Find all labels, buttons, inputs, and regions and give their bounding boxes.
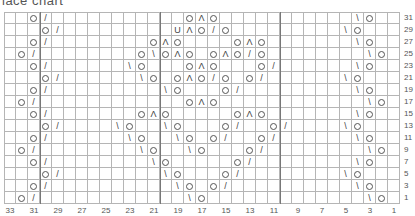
row-label: 5 [404, 169, 415, 178]
k2tog-icon: / [40, 12, 52, 24]
chart-cell [316, 168, 328, 180]
double-decrease-icon: Λ [148, 108, 160, 120]
chart-cell [304, 180, 316, 192]
ssk-icon: \ [352, 12, 364, 24]
yarn-over-icon [28, 12, 40, 24]
yarn-over-icon [352, 168, 364, 180]
chart-cell [136, 168, 148, 180]
chart-cell [112, 96, 124, 108]
row-label: 7 [404, 157, 415, 166]
chart-cell [292, 96, 304, 108]
yarn-over-icon [184, 12, 196, 24]
chart-cell [100, 72, 112, 84]
chart-cell [76, 132, 88, 144]
chart-cell [292, 84, 304, 96]
yarn-over-icon [172, 84, 184, 96]
yarn-over-icon [208, 48, 220, 60]
ssk-icon: \ [364, 192, 376, 204]
row-label: 17 [404, 97, 415, 106]
chart-cell [256, 24, 268, 36]
chart-cell [268, 96, 280, 108]
chart-cell [340, 180, 352, 192]
chart-cell [304, 12, 316, 24]
chart-cell [376, 24, 388, 36]
row-label: 19 [404, 85, 415, 94]
yarn-over-icon [136, 108, 148, 120]
lace-chart-grid: /Λ\/UΛ/\/ΛΛ\/\ΛΛ/\/\Λ/\/\Λ//\/\/\/Λ\/ΛΛ\… [4, 12, 400, 204]
chart-cell [292, 60, 304, 72]
yarn-over-icon [208, 180, 220, 192]
chart-cell [280, 144, 292, 156]
chart-cell [4, 120, 16, 132]
chart-cell [280, 36, 292, 48]
chart-cell [268, 24, 280, 36]
ssk-icon: \ [136, 72, 148, 84]
k2tog-icon: / [40, 132, 52, 144]
chart-cell [316, 48, 328, 60]
chart-cell [52, 84, 64, 96]
chart-cell [280, 192, 292, 204]
yarn-over-icon [40, 168, 52, 180]
chart-cell [280, 180, 292, 192]
ssk-icon: \ [340, 24, 352, 36]
ssk-icon: \ [136, 144, 148, 156]
ssk-icon: \ [352, 36, 364, 48]
yarn-over-icon [208, 132, 220, 144]
ssk-icon: \ [124, 132, 136, 144]
repeat-line [160, 12, 161, 204]
chart-cell [340, 192, 352, 204]
chart-cell [304, 36, 316, 48]
chart-cell [100, 12, 112, 24]
row-label: 21 [404, 73, 415, 82]
yarn-over-icon [172, 120, 184, 132]
chart-cell [328, 144, 340, 156]
chart-cell [268, 72, 280, 84]
chart-cell [340, 84, 352, 96]
yarn-over-icon [28, 180, 40, 192]
chart-cell [328, 36, 340, 48]
chart-cell [388, 144, 400, 156]
chart-cell [196, 84, 208, 96]
chart-cell [124, 12, 136, 24]
ssk-icon: \ [364, 48, 376, 60]
chart-cell [196, 156, 208, 168]
chart-cell [88, 168, 100, 180]
chart-cell [160, 132, 172, 144]
ssk-icon: \ [148, 48, 160, 60]
yarn-over-icon [256, 132, 268, 144]
chart-cell [112, 36, 124, 48]
chart-cell [376, 132, 388, 144]
k2tog-icon: / [232, 84, 244, 96]
chart-cell [124, 180, 136, 192]
chart-cell [100, 192, 112, 204]
chart-cell [40, 192, 52, 204]
yarn-over-icon [232, 48, 244, 60]
chart-cell [232, 132, 244, 144]
chart-cell [52, 108, 64, 120]
chart-cell [304, 168, 316, 180]
chart-cell [232, 60, 244, 72]
chart-cell [100, 108, 112, 120]
chart-cell [280, 156, 292, 168]
column-label: 23 [124, 206, 136, 215]
double-decrease-icon: Λ [184, 24, 196, 36]
chart-cell [172, 108, 184, 120]
chart-cell [268, 48, 280, 60]
chart-cell [304, 192, 316, 204]
chart-cell [172, 192, 184, 204]
chart-cell [100, 84, 112, 96]
chart-cell [4, 60, 16, 72]
chart-cell [88, 84, 100, 96]
k2tog-icon: / [280, 120, 292, 132]
chart-cell [328, 168, 340, 180]
chart-cell [100, 144, 112, 156]
ssk-icon: \ [184, 192, 196, 204]
chart-cell [328, 180, 340, 192]
chart-cell [124, 48, 136, 60]
ssk-icon: \ [364, 144, 376, 156]
k2tog-icon: / [244, 156, 256, 168]
ssk-icon: \ [340, 72, 352, 84]
chart-cell [160, 192, 172, 204]
chart-cell [208, 108, 220, 120]
chart-cell [220, 156, 232, 168]
